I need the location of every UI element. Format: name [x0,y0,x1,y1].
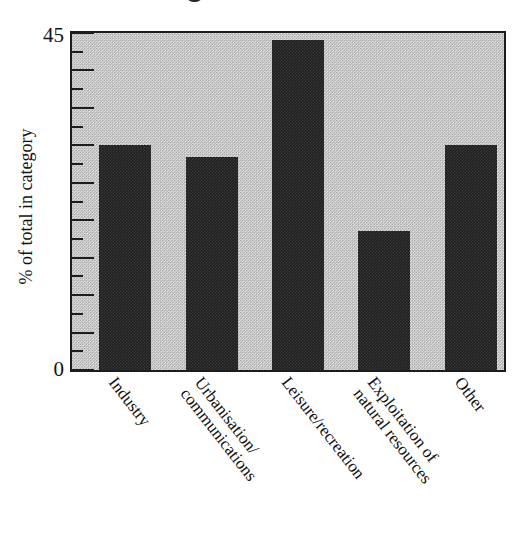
y-axis-minor-tick [72,201,83,203]
y-axis-minor-tick [72,88,83,90]
y-axis-major-tick [72,69,94,71]
x-axis-label-line-1: Industry [105,373,155,429]
x-axis-category-label: Leisure/recreation [278,374,368,482]
plot-inner [72,33,504,370]
y-axis-major-tick [72,332,94,334]
bar [99,145,151,370]
y-axis-major-tick [72,257,94,259]
bar [272,40,324,370]
cut-off-glyph-fragment [186,0,203,2]
y-axis-minor-tick [72,126,83,128]
bar-chart-figure: % of total in category 45 0 IndustryUrba… [0,0,531,548]
y-axis-major-tick [72,182,94,184]
y-axis-label-min: 0 [54,359,65,380]
y-axis-label-max: 45 [43,25,64,46]
y-axis-minor-tick [72,313,83,315]
bar [445,145,497,370]
x-axis-label-line-1: Other [451,373,490,415]
y-axis-minor-tick [72,163,83,165]
y-axis-major-tick [72,32,94,34]
y-axis-minor-tick [72,238,83,240]
y-axis-minor-tick [72,350,83,352]
bar [358,231,410,370]
y-axis-major-tick [72,107,94,109]
x-axis-category-labels: IndustryUrbanisation/communicationsLeisu… [70,374,506,548]
plot-area [70,31,506,372]
y-axis-major-tick [72,219,94,221]
y-axis-major-tick [72,294,94,296]
y-axis-minor-tick [72,275,83,277]
x-axis-category-label: Urbanisation/communications [177,374,274,485]
x-axis-category-label: Other [451,374,489,415]
x-axis-category-label: Industry [105,374,154,430]
y-axis-minor-tick [72,51,83,53]
y-axis-major-tick [72,369,94,371]
y-axis-major-tick [72,144,94,146]
y-axis-tick-labels: 45 0 [22,31,64,372]
x-axis-label-line-1: Leisure/recreation [278,373,369,482]
bar [186,157,238,370]
